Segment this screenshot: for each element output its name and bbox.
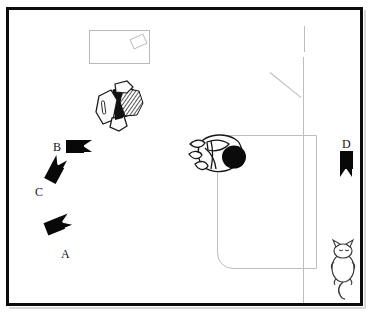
camera-icon-c[interactable] xyxy=(44,155,68,184)
wall-segment-upper xyxy=(304,26,305,52)
camera-label-a: A xyxy=(61,248,70,260)
camera-label-d: D xyxy=(342,138,351,150)
video-camera-body-icon xyxy=(66,140,84,153)
camera-icon-d[interactable] xyxy=(340,151,353,177)
camera-label-b: B xyxy=(53,141,61,153)
lying-person-on-bed xyxy=(185,126,251,182)
camera-icon-b[interactable] xyxy=(66,140,92,153)
animal-outline xyxy=(327,238,360,300)
room-scene: A B C D xyxy=(9,10,360,303)
diagram-canvas: A B C D xyxy=(0,0,376,323)
video-camera-lens-icon xyxy=(340,168,352,177)
video-camera-body-icon xyxy=(340,151,353,169)
wall-segment-diagonal xyxy=(270,72,302,98)
video-camera-lens-icon xyxy=(83,140,92,152)
seated-person-at-table xyxy=(93,78,151,132)
camera-label-c: C xyxy=(35,186,43,198)
camera-icon-a[interactable] xyxy=(44,214,73,236)
